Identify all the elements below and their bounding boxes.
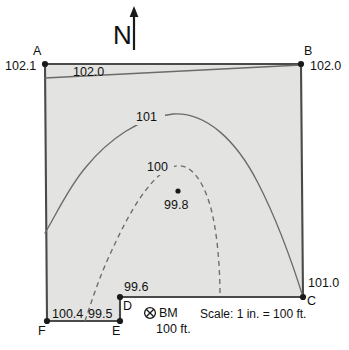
benchmark-elevation: 100 ft. bbox=[156, 323, 191, 336]
vertex-dot-b bbox=[298, 61, 304, 67]
benchmark-circle-x-icon bbox=[145, 308, 156, 319]
vertex-label-d: D bbox=[123, 300, 132, 313]
vertex-label-f: F bbox=[38, 325, 46, 338]
vertex-label-e: E bbox=[112, 325, 120, 338]
parcel-polygon bbox=[45, 64, 303, 321]
vertex-label-c: C bbox=[307, 295, 316, 308]
contour-label-100: 100 bbox=[147, 161, 168, 174]
elevation-label-a: 102.1 bbox=[5, 60, 36, 73]
vertex-dot-a bbox=[42, 61, 48, 67]
map-drawing bbox=[0, 0, 349, 350]
contour-label-102: 102.0 bbox=[73, 66, 104, 79]
spot-elevation-dot bbox=[175, 188, 180, 193]
vertex-label-a: A bbox=[33, 45, 41, 58]
elevation-label-b: 102.0 bbox=[310, 60, 341, 73]
elevation-label-d: 99.6 bbox=[124, 281, 148, 294]
vertex-label-b: B bbox=[304, 45, 312, 58]
vertex-dot-c bbox=[300, 294, 306, 300]
elevation-label-c: 101.0 bbox=[308, 277, 339, 290]
figure-caption bbox=[0, 341, 349, 350]
north-letter: N bbox=[113, 22, 131, 48]
scale-note: Scale: 1 in. = 100 ft. bbox=[200, 308, 306, 320]
contour-map-figure: N A 102.1 B 102.0 C 101.0 D 99.6 E 99.5 … bbox=[0, 0, 349, 350]
contour-label-101: 101 bbox=[136, 111, 157, 124]
elevation-label-f: 100.4 bbox=[52, 308, 83, 321]
elevation-label-e: 99.5 bbox=[88, 308, 112, 321]
spot-elevation-label: 99.8 bbox=[164, 199, 188, 212]
benchmark-label: BM bbox=[159, 307, 178, 320]
